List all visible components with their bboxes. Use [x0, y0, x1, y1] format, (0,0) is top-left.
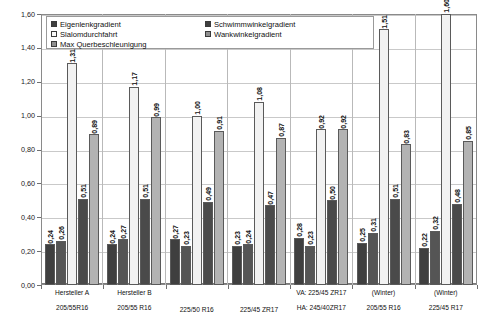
x-axis-label-line2: 205/55R16: [41, 303, 103, 312]
bar-group: 0,280,230,920,500,92: [291, 14, 353, 285]
bar[interactable]: 1,17: [129, 87, 139, 285]
x-axis-tick-mark: [477, 285, 478, 289]
bar-value-label: 0,25: [358, 228, 365, 242]
bar-value-label: 0,92: [340, 115, 347, 129]
bar-value-label: 0,51: [79, 184, 86, 198]
bar[interactable]: 0,51: [390, 199, 400, 285]
bar[interactable]: 1,51: [379, 29, 389, 285]
bar-groups: 0,240,261,310,510,890,240,271,170,510,99…: [41, 14, 477, 285]
bar[interactable]: 0,85: [463, 141, 473, 285]
legend-item: Schwimmwinkelgradient: [205, 19, 295, 29]
bar[interactable]: 0,92: [338, 129, 348, 285]
bar-value-label: 1,31: [68, 49, 75, 63]
bar[interactable]: 0,23: [181, 246, 191, 285]
chart-legend: EigenlenkgradientSlalomdurchfahrtMax Que…: [46, 16, 374, 49]
bar-value-label: 0,51: [391, 184, 398, 198]
legend-swatch-icon: [51, 41, 57, 47]
bar[interactable]: 0,23: [305, 246, 315, 285]
x-axis-category-label: Hersteller B205/55 R16: [103, 289, 165, 325]
y-axis-tick-label: 1,40: [21, 44, 35, 51]
bar-value-label: 1,51: [380, 15, 387, 29]
bar-value-label: 0,50: [329, 186, 336, 200]
bar[interactable]: 0,91: [214, 131, 224, 285]
bar-value-label: 0,28: [296, 223, 303, 237]
bar-value-label: 0,51: [142, 184, 149, 198]
bar[interactable]: 0,89: [89, 134, 99, 285]
bar[interactable]: 0,47: [265, 205, 275, 285]
bar[interactable]: 0,83: [401, 144, 411, 285]
legend-swatch-icon: [51, 31, 57, 37]
legend-column-right: SchwimmwinkelgradientWankwinkelgradient: [205, 19, 295, 39]
bar[interactable]: 0,25: [357, 243, 367, 285]
bar-value-label: 0,24: [244, 230, 251, 244]
bar-value-label: 0,22: [421, 233, 428, 247]
bar-value-label: 0,32: [432, 216, 439, 230]
bar[interactable]: 0,27: [118, 239, 128, 285]
bar[interactable]: 1,00: [192, 116, 202, 285]
bar[interactable]: 1,60: [441, 14, 451, 285]
bar[interactable]: 0,24: [243, 244, 253, 285]
x-axis-label-line2: 205/55 R16: [352, 303, 414, 312]
x-axis-labels: Hersteller A205/55R16Hersteller B205/55 …: [41, 289, 477, 325]
legend-swatch-icon: [205, 21, 211, 27]
bar-value-label: 1,60: [443, 0, 450, 13]
bar[interactable]: 1,08: [254, 102, 264, 285]
bar-group: 0,240,261,310,510,89: [41, 14, 103, 285]
bar[interactable]: 0,51: [140, 199, 150, 285]
bar[interactable]: 0,99: [151, 117, 161, 285]
legend-item: Wankwinkelgradient: [205, 29, 295, 39]
legend-swatch-icon: [51, 21, 57, 27]
bar-value-label: 0,87: [277, 123, 284, 137]
bar[interactable]: 0,92: [316, 129, 326, 285]
bar[interactable]: 0,87: [276, 138, 286, 285]
bar-value-label: 0,27: [171, 225, 178, 239]
bar[interactable]: 0,50: [327, 200, 337, 285]
x-axis-category-label: VA: 225/45 ZR17HA: 245/40ZR17: [290, 289, 352, 325]
bar[interactable]: 0,31: [368, 233, 378, 286]
bar[interactable]: 0,48: [452, 204, 462, 285]
legend-label: Max Querbeschleunigung: [60, 40, 147, 49]
x-axis-label-line2: 225/50 R16: [166, 305, 228, 314]
bar[interactable]: 0,27: [170, 239, 180, 285]
bar[interactable]: 0,26: [56, 241, 66, 285]
bar-group: 0,230,241,080,470,87: [228, 14, 290, 285]
y-axis-tick-label: 0,40: [21, 214, 35, 221]
bar[interactable]: 0,51: [78, 199, 88, 285]
x-axis-label-line2: HA: 245/40ZR17: [290, 303, 352, 312]
x-axis-label-line1: Hersteller B: [103, 288, 165, 297]
bar-value-label: 0,47: [266, 191, 273, 205]
bar-value-label: 0,24: [109, 230, 116, 244]
bar[interactable]: 0,23: [232, 246, 242, 285]
bar[interactable]: 0,49: [203, 202, 213, 285]
x-axis-label-line2: 225/45 R17: [415, 303, 477, 312]
bar-value-label: 0,27: [120, 225, 127, 239]
bar-value-label: 0,26: [57, 226, 64, 240]
legend-item: Max Querbeschleunigung: [51, 39, 147, 49]
legend-label: Wankwinkelgradient: [214, 30, 282, 39]
y-axis-tick-label: 0,80: [21, 146, 35, 153]
bar[interactable]: 1,31: [67, 63, 77, 285]
bar-value-label: 0,48: [454, 189, 461, 203]
bar-value-label: 1,00: [193, 101, 200, 115]
bar[interactable]: 0,32: [430, 231, 440, 285]
x-axis-category-label: 225/50 R16: [166, 289, 228, 325]
bar-group: 0,240,271,170,510,99: [103, 14, 165, 285]
x-axis-category-label: 225/45 ZR17: [228, 289, 290, 325]
bar-group: 0,250,311,510,510,83: [353, 14, 415, 285]
legend-item: Eigenlenkgradient: [51, 19, 147, 29]
legend-label: Schwimmwinkelgradient: [214, 20, 295, 29]
bar[interactable]: 0,24: [107, 244, 117, 285]
legend-column-left: EigenlenkgradientSlalomdurchfahrtMax Que…: [51, 19, 147, 49]
bar[interactable]: 0,28: [294, 238, 304, 285]
legend-label: Slalomdurchfahrt: [60, 30, 117, 39]
bar-value-label: 1,08: [255, 87, 262, 101]
y-axis-tick-label: 1,00: [21, 112, 35, 119]
y-axis: 1,601,401,201,000,800,600,400,200,00: [0, 0, 41, 325]
x-axis-label-line2: 205/55 R16: [103, 303, 165, 312]
bar[interactable]: 0,24: [45, 244, 55, 285]
x-axis-category-label: (Winter)225/45 R17: [415, 289, 477, 325]
y-axis-tick-label: 0,20: [21, 248, 35, 255]
y-axis-tick-label: 0,00: [21, 282, 35, 289]
bar-value-label: 0,23: [182, 231, 189, 245]
bar[interactable]: 0,22: [419, 248, 429, 285]
